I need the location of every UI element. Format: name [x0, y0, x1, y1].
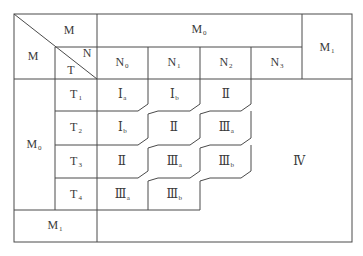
cell-t2-n1: Ⅱ	[170, 121, 179, 135]
row-label-t3: T3	[70, 155, 82, 169]
column-header-n0: N0	[115, 56, 128, 70]
cell-t3-n2: Ⅲb	[218, 155, 233, 169]
outer-border	[14, 14, 352, 242]
row-label-t1: T1	[70, 88, 82, 102]
cell-t1-n2: Ⅱ	[222, 88, 231, 102]
corner-label-m-top: M	[64, 24, 75, 36]
row-group-m1: M1	[47, 219, 62, 233]
cell-t1-n0: Ⅰa	[118, 88, 126, 102]
region-iv: Ⅳ	[293, 155, 305, 167]
cell-t2-n0: Ⅰb	[118, 121, 126, 135]
row-label-t2: T2	[70, 121, 82, 135]
header-group-m0: M0	[191, 23, 206, 37]
cell-t3-n1: Ⅲa	[167, 155, 182, 169]
column-header-n3: N3	[270, 56, 283, 70]
header-group-m1: M1	[319, 41, 334, 55]
cell-t3-n0: Ⅱ	[118, 155, 127, 169]
cell-t4-n1: Ⅲb	[166, 188, 181, 202]
row-group-m0: M0	[26, 138, 41, 152]
cell-t1-n1: Ⅰb	[170, 88, 178, 102]
column-header-n1: N1	[167, 56, 180, 70]
cell-t4-n0: Ⅲa	[115, 188, 130, 202]
column-header-n2: N2	[219, 56, 232, 70]
corner-label-m-left: M	[28, 50, 39, 62]
row-label-t4: T4	[70, 188, 82, 202]
corner-label-t: T	[67, 64, 74, 76]
corner-label-n: N	[83, 47, 92, 59]
cell-t2-n2: Ⅲa	[219, 121, 234, 135]
